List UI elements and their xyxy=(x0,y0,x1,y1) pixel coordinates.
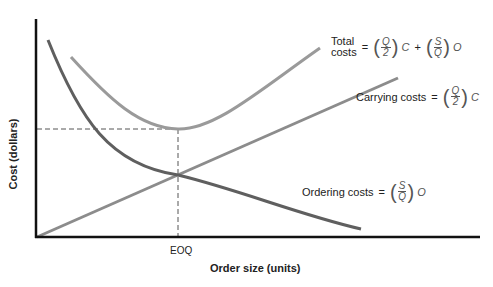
carrying-costs-label: Carrying costs = (Q2) C xyxy=(356,86,479,107)
x-axis-title: Order size (units) xyxy=(210,262,300,274)
carrying-cost-line xyxy=(37,78,398,237)
ordering-costs-label: Ordering costs = (SQ) O xyxy=(302,181,426,202)
eoq-tick-label: EOQ xyxy=(170,245,192,256)
total-costs-label: Totalcosts = (Q2) C + (SQ) O xyxy=(331,36,462,58)
total-cost-curve xyxy=(71,48,320,129)
y-axis-title: Cost (dollars) xyxy=(7,119,19,190)
